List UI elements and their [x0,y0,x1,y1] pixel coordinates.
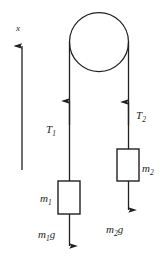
pulley-wheel [70,13,129,72]
weight-m1g-symbol: m [38,228,46,240]
atwood-diagram-svg: x T1 T2 m1 [0,0,165,258]
weight-m2g-symbol: m [106,223,114,235]
rope-right-group: T2 [129,42,147,149]
block-m2-label: m2 [142,162,154,177]
weight-m1g-label: m1g [38,228,56,243]
atwood-machine-figure: x T1 T2 m1 [0,0,165,258]
tension-t2-subscript: 2 [142,115,146,124]
block-m2-symbol: m [142,162,150,174]
block-m1 [58,181,80,214]
weight-m1g-suffix: g [50,228,56,240]
block-m1-group: m1 [40,181,80,214]
block-m1-symbol: m [40,192,48,204]
block-m2 [117,149,139,181]
tension-t1-subscript: 1 [52,129,56,138]
weight-m2g-label: m2g [106,223,124,238]
block-m1-label: m1 [40,192,52,207]
weight-m2g-suffix: g [118,223,124,235]
x-axis-group: x [15,23,22,170]
rope-left-group: T1 [46,42,70,181]
x-axis-label: x [15,23,20,33]
weight-m2g-group: m2g [106,181,129,238]
tension-t1-label: T1 [46,123,56,138]
block-m1-subscript: 1 [48,198,52,207]
block-m2-subscript: 2 [150,168,154,177]
block-m2-group: m2 [117,149,154,181]
weight-m1g-group: m1g [38,214,70,246]
tension-t2-label: T2 [136,109,146,124]
